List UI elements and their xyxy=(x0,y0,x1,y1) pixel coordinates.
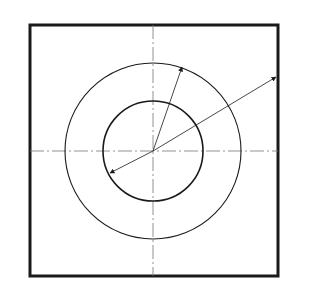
r-c-radius-line xyxy=(110,151,153,173)
rock-zone-diagram xyxy=(0,0,318,299)
r-p-radius-line xyxy=(153,67,182,151)
